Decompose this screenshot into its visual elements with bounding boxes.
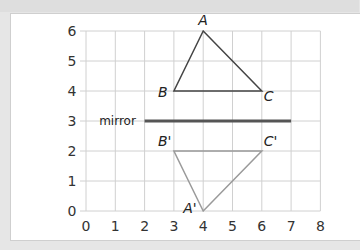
svg-text:1: 1: [111, 218, 120, 234]
svg-text:0: 0: [82, 218, 91, 234]
point-label-c: C: [264, 88, 274, 104]
svg-text:2: 2: [68, 143, 77, 159]
svg-text:6: 6: [257, 218, 266, 234]
svg-text:2: 2: [140, 218, 149, 234]
svg-text:7: 7: [287, 218, 296, 234]
point-label-a: A: [197, 12, 208, 28]
svg-text:4: 4: [68, 83, 77, 99]
point-label-a-prime: A': [182, 200, 196, 216]
svg-text:3: 3: [169, 218, 178, 234]
point-label-b: B: [158, 84, 168, 100]
svg-text:1: 1: [68, 173, 77, 189]
svg-text:5: 5: [228, 218, 237, 234]
mirror-label: mirror: [99, 114, 136, 128]
svg-text:5: 5: [68, 53, 77, 69]
x-axis-ticks: 012345678: [82, 218, 325, 234]
svg-text:4: 4: [199, 218, 208, 234]
svg-text:8: 8: [316, 218, 325, 234]
point-label-b-prime: B': [158, 133, 171, 149]
svg-text:0: 0: [68, 203, 77, 219]
svg-text:3: 3: [68, 113, 77, 129]
svg-text:6: 6: [68, 23, 77, 39]
y-axis-ticks: 0123456: [68, 23, 77, 219]
point-label-c-prime: C': [264, 133, 278, 149]
